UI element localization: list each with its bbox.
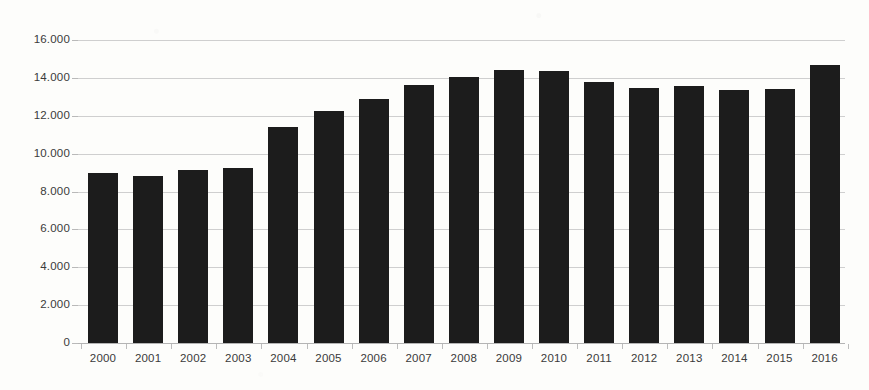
x-axis-tick-label: 2011 xyxy=(576,352,622,364)
bar-series xyxy=(78,30,845,350)
bar[interactable] xyxy=(88,173,118,343)
x-axis-tick-label: 2006 xyxy=(351,352,397,364)
x-axis-tick-label: 2003 xyxy=(215,352,261,364)
chart-screenshot: 02.0004.0006.0008.00010.00012.00014.0001… xyxy=(0,0,869,390)
bar[interactable] xyxy=(674,86,704,343)
x-axis-tick-label: 2001 xyxy=(125,352,171,364)
x-axis-tick-label: 2008 xyxy=(441,352,487,364)
y-axis-tick-label: 14.000 xyxy=(8,71,70,83)
bar[interactable] xyxy=(133,176,163,343)
bar[interactable] xyxy=(359,99,389,343)
y-axis-tick-label: 2.000 xyxy=(8,298,70,310)
x-axis-tick-mark xyxy=(848,344,849,349)
x-axis-tick-label: 2009 xyxy=(486,352,532,364)
x-axis-tick-mark xyxy=(216,344,217,349)
bar[interactable] xyxy=(584,82,614,343)
plot-area xyxy=(78,30,845,350)
x-axis-tick-mark xyxy=(126,344,127,349)
x-axis-tick-mark xyxy=(577,344,578,349)
bar[interactable] xyxy=(810,65,840,343)
y-axis-tick-label: 4.000 xyxy=(8,260,70,272)
x-axis-tick-label: 2000 xyxy=(80,352,126,364)
y-axis-tick-label: 10.000 xyxy=(8,147,70,159)
x-axis-tick-label: 2002 xyxy=(170,352,216,364)
bar[interactable] xyxy=(404,85,434,343)
x-axis-tick-mark xyxy=(171,344,172,349)
bar[interactable] xyxy=(268,127,298,343)
x-axis-tick-mark xyxy=(352,344,353,349)
x-axis-tick-label: 2007 xyxy=(396,352,442,364)
bar[interactable] xyxy=(223,168,253,343)
bar[interactable] xyxy=(539,71,569,343)
x-axis-tick-mark xyxy=(803,344,804,349)
x-axis-tick-mark xyxy=(758,344,759,349)
x-axis-tick-label: 2005 xyxy=(306,352,352,364)
bar[interactable] xyxy=(765,89,795,343)
x-axis-tick-mark xyxy=(81,344,82,349)
y-axis-tick-label: 16.000 xyxy=(8,33,70,45)
x-axis-tick-label: 2016 xyxy=(802,352,848,364)
x-axis-tick-label: 2015 xyxy=(757,352,803,364)
bar[interactable] xyxy=(314,111,344,343)
bar[interactable] xyxy=(629,88,659,343)
bar[interactable] xyxy=(494,70,524,343)
bar[interactable] xyxy=(719,90,749,343)
x-axis-tick-label: 2014 xyxy=(711,352,757,364)
x-axis-tick-mark xyxy=(261,344,262,349)
x-axis-tick-mark xyxy=(622,344,623,349)
y-axis-tick-label: 12.000 xyxy=(8,109,70,121)
x-axis: 2000200120022003200420052006200720082009… xyxy=(78,352,845,374)
x-axis-tick-mark xyxy=(667,344,668,349)
x-axis-tick-mark xyxy=(532,344,533,349)
x-axis-tick-mark xyxy=(442,344,443,349)
x-axis-tick-mark xyxy=(397,344,398,349)
x-axis-tick-label: 2013 xyxy=(666,352,712,364)
y-axis-tick-label: 6.000 xyxy=(8,222,70,234)
x-axis-tick-label: 2010 xyxy=(531,352,577,364)
x-axis-tick-mark xyxy=(487,344,488,349)
bar[interactable] xyxy=(178,170,208,343)
y-axis-tick-label: 0 xyxy=(8,336,70,348)
y-axis-tick-label: 8.000 xyxy=(8,185,70,197)
x-axis-tick-mark xyxy=(712,344,713,349)
y-axis: 02.0004.0006.0008.00010.00012.00014.0001… xyxy=(8,30,70,350)
x-axis-tick-mark xyxy=(307,344,308,349)
x-axis-tick-label: 2012 xyxy=(621,352,667,364)
x-axis-tick-label: 2004 xyxy=(260,352,306,364)
bar[interactable] xyxy=(449,77,479,343)
